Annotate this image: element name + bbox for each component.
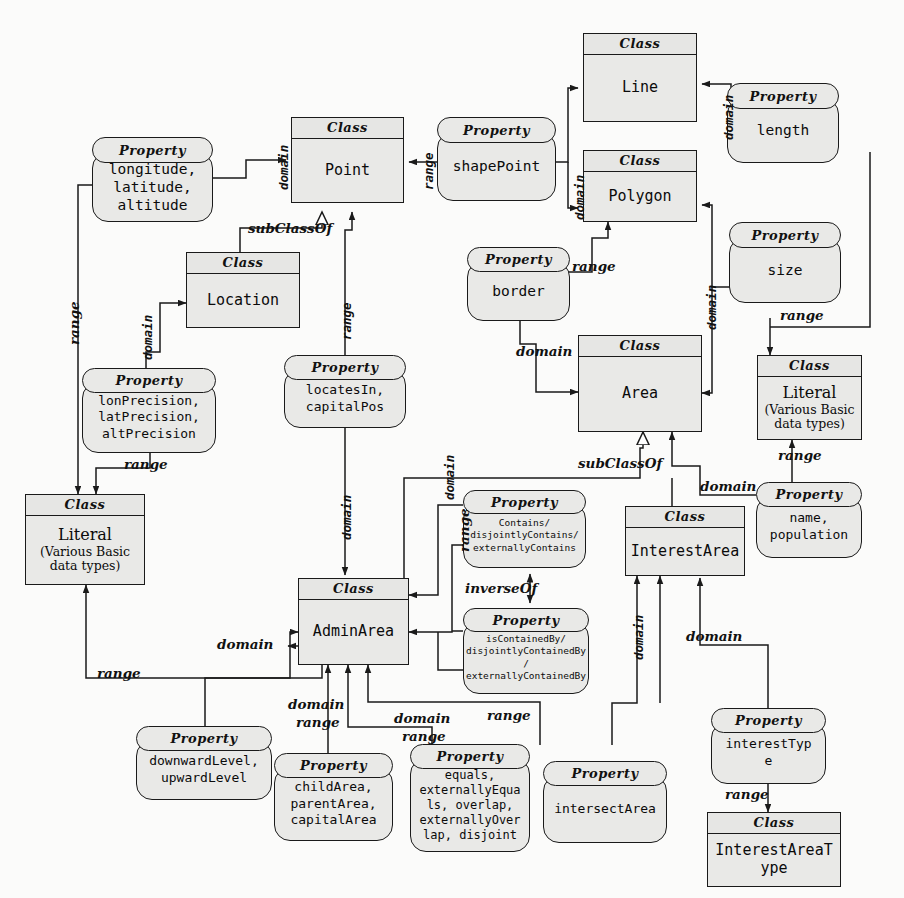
stereotype-label: Class xyxy=(292,118,403,139)
stereotype-label: Class xyxy=(187,253,299,274)
class-node-point[interactable]: Class Point xyxy=(291,117,404,203)
class-node-literal-right[interactable]: Class Literal(Various Basic data types) xyxy=(757,355,862,440)
stereotype-label: Property xyxy=(92,137,213,163)
edge-label-range-border: range xyxy=(572,258,616,274)
stereotype-label: Property xyxy=(410,744,530,769)
property-node-levels[interactable]: Property downwardLevel, upwardLevel xyxy=(136,726,272,800)
edge-label-domain-equals: domain xyxy=(394,710,450,726)
edge-label-range-contains: range xyxy=(456,508,472,552)
edge-label-domain-childarea: domain xyxy=(288,696,344,712)
edge-label-range-interesttype: range xyxy=(725,786,769,802)
class-node-polygon[interactable]: Class Polygon xyxy=(583,150,697,222)
class-name: Literal(Various Basic data types) xyxy=(26,516,144,584)
literal-subtitle: (Various Basic data types) xyxy=(40,545,130,574)
class-name: InterestAreaT ype xyxy=(708,834,840,886)
stereotype-label: Class xyxy=(708,813,840,834)
property-node-childarea[interactable]: Property childArea, parentArea, capitalA… xyxy=(274,753,393,841)
property-node-equals[interactable]: Property equals, externallyEqua ls, over… xyxy=(410,744,530,852)
edge-label-range-locatesin-point: range xyxy=(339,302,354,340)
property-node-size[interactable]: Property size xyxy=(729,222,841,303)
stereotype-label: Property xyxy=(727,83,839,109)
property-node-namepop[interactable]: Property name, population xyxy=(756,482,862,558)
edge-label-domain-locatesin-adminarea: domain xyxy=(339,495,354,540)
stereotype-label: Property xyxy=(463,608,589,632)
stereotype-label: Property xyxy=(756,482,862,507)
class-node-interestareatype[interactable]: Class InterestAreaT ype xyxy=(707,812,841,887)
stereotype-label: Class xyxy=(626,507,744,528)
stereotype-label: Property xyxy=(437,117,556,143)
edge-label-range-intersect: range xyxy=(487,707,531,723)
edge-label-range-shapepoint-point: range xyxy=(421,152,436,190)
stereotype-label: Property xyxy=(136,726,272,751)
edge-label-subclassof-adminarea-area: subClassOf xyxy=(578,455,662,471)
edge-label-domain-intersect: domain xyxy=(631,615,646,660)
literal-subtitle: (Various Basic data types) xyxy=(764,403,854,432)
stereotype-label: Class xyxy=(584,34,696,55)
class-node-literal-left[interactable]: Class Literal(Various Basic data types) xyxy=(25,494,145,585)
edge-label-range-levels: range xyxy=(97,665,141,681)
stereotype-label: Property xyxy=(711,708,826,733)
edge-label-range-namepop-literal: range xyxy=(778,447,822,463)
edge-label-domain-namepop-area: domain xyxy=(700,478,756,494)
class-node-adminarea[interactable]: Class AdminArea xyxy=(298,578,409,665)
edge-label-inverseof: inverseOf xyxy=(465,580,537,596)
literal-title: Literal xyxy=(40,526,130,544)
class-name: Location xyxy=(187,274,299,327)
property-node-interesttype[interactable]: Property interestTyp e xyxy=(711,708,826,784)
property-name: childArea, parentArea, capitalArea xyxy=(274,767,393,841)
class-node-location[interactable]: Class Location xyxy=(186,252,300,328)
property-node-intersectarea[interactable]: Property intersectArea xyxy=(543,761,667,843)
class-name: Literal(Various Basic data types) xyxy=(758,377,861,439)
edge-label-domain-border: domain xyxy=(516,343,572,359)
stereotype-label: Class xyxy=(299,579,408,600)
property-node-length[interactable]: Property length xyxy=(727,83,839,163)
edge-label-range-equals: range xyxy=(402,728,446,744)
stereotype-label: Class xyxy=(758,356,861,377)
class-name: InterestArea xyxy=(626,528,744,575)
property-node-border[interactable]: Property border xyxy=(467,247,570,321)
stereotype-label: Property xyxy=(467,247,570,272)
stereotype-label: Class xyxy=(584,151,696,172)
edge-label-domain-size: domain xyxy=(704,285,719,330)
property-node-coords[interactable]: Property longitude, latitude, altitude xyxy=(92,137,213,222)
property-node-shapepoint[interactable]: Property shapePoint xyxy=(437,117,556,201)
edge-label-domain-shapepoint: domain xyxy=(572,175,587,220)
stereotype-label: Class xyxy=(579,336,701,357)
property-name: equals, externallyEqua ls, overlap, exte… xyxy=(410,758,530,852)
stereotype-label: Property xyxy=(274,753,393,778)
class-name: Point xyxy=(292,139,403,202)
class-name: Polygon xyxy=(584,172,696,221)
stereotype-label: Property xyxy=(284,355,406,380)
edge-label-range-size: range xyxy=(780,307,824,323)
edge-label-range-childarea: range xyxy=(296,714,340,730)
edge-label-domain-interesttype: domain xyxy=(686,628,742,644)
property-node-iscontainedby[interactable]: Property isContainedBy/ disjointlyContai… xyxy=(463,608,589,694)
edge-label-domain-length: domain xyxy=(721,95,736,140)
property-node-locatesin[interactable]: Property locatesIn, capitalPos xyxy=(284,355,406,428)
edge-label-domain-contains: domain xyxy=(442,455,457,500)
stereotype-label: Property xyxy=(463,490,586,514)
class-name: AdminArea xyxy=(299,600,408,664)
class-node-line[interactable]: Class Line xyxy=(583,33,697,122)
ontology-diagram: Class Line Class Point Class Polygon Cla… xyxy=(0,0,904,898)
property-node-precision[interactable]: Property lonPrecision, latPrecision, alt… xyxy=(82,368,216,453)
edge-label-range-coords-literal: range xyxy=(66,301,82,345)
stereotype-label: Property xyxy=(82,368,216,393)
edge-label-domain-levels: domain xyxy=(217,636,273,652)
stereotype-label: Property xyxy=(729,222,841,248)
class-node-area[interactable]: Class Area xyxy=(578,335,702,432)
edge-label-domain-coords-point: domain xyxy=(276,145,291,190)
stereotype-label: Class xyxy=(26,495,144,516)
edge-label-subclassof-location-point: subClassOf xyxy=(248,220,332,236)
property-node-contains[interactable]: Property Contains/ disjointlyContains/ e… xyxy=(463,490,586,568)
stereotype-label: Property xyxy=(543,761,667,786)
class-node-interestarea[interactable]: Class InterestArea xyxy=(625,506,745,576)
class-name: Area xyxy=(579,357,701,431)
edge-label-range-precision-literal: range xyxy=(124,456,168,472)
literal-title: Literal xyxy=(764,384,854,402)
class-name: Line xyxy=(584,55,696,121)
edge-label-domain-precision-location: domain xyxy=(140,315,155,360)
